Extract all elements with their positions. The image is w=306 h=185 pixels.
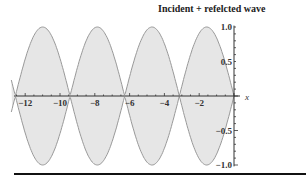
svg-text:−10: −10: [53, 98, 68, 108]
svg-text:1.0: 1.0: [221, 22, 233, 32]
svg-text:−8: −8: [90, 98, 100, 108]
svg-text:−1.0: −1.0: [216, 160, 233, 170]
svg-text:−4: −4: [160, 98, 170, 108]
svg-text:−2: −2: [194, 98, 204, 108]
standing-wave-chart: −12−10−8−6−4−2x1.00.5−0.5−1.0: [0, 0, 306, 185]
svg-text:x: x: [244, 92, 249, 102]
svg-text:−0.5: −0.5: [216, 126, 233, 136]
svg-text:−6: −6: [125, 98, 135, 108]
svg-text:0.5: 0.5: [221, 57, 233, 67]
svg-text:−12: −12: [18, 98, 33, 108]
